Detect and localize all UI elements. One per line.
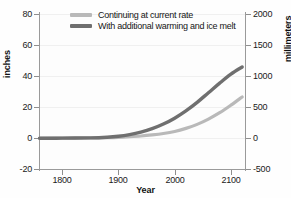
legend-swatch-icon-1 <box>70 24 92 28</box>
y-tick-label-right-0: 0 <box>253 133 258 143</box>
y-tick-label-right-500: 500 <box>253 102 267 112</box>
y-tick-right-500 <box>246 107 251 108</box>
y-tick-label-left-neg20: -20 <box>20 164 32 174</box>
y-tick-right-1000 <box>246 76 251 77</box>
x-tick-label-1800: 1800 <box>52 175 71 185</box>
y-axis-left-title: inches <box>2 50 12 78</box>
y-tick-right-1500 <box>246 45 251 46</box>
legend-item-1: With additional warming and ice melt <box>70 20 236 31</box>
y-tick-label-right-1500: 1500 <box>253 40 272 50</box>
y-tick-label-right-2000: 2000 <box>253 9 272 19</box>
y-axis-right-line <box>245 12 246 171</box>
y-tick-label-left-60: 60 <box>22 40 32 50</box>
legend-item-0: Continuing at current rate <box>70 9 236 20</box>
plot-area <box>39 14 245 169</box>
y-tick-label-left-80: 80 <box>22 9 32 19</box>
y-tick-left-60 <box>34 45 39 46</box>
x-tick-label-2000: 2000 <box>165 175 184 185</box>
gridline-0 <box>40 138 245 139</box>
sea-level-rise-chart: 80 60 40 20 0 -20 2000 1500 1000 500 0 -… <box>0 0 291 198</box>
y-tick-right-neg500 <box>246 169 251 170</box>
y-tick-label-left-20: 20 <box>22 102 32 112</box>
y-tick-left-20 <box>34 107 39 108</box>
legend-label-0: Continuing at current rate <box>98 10 193 20</box>
y-tick-label-left-40: 40 <box>22 71 32 81</box>
legend-swatch-icon-0 <box>70 13 92 17</box>
x-tick-label-2100: 2100 <box>221 175 240 185</box>
y-axis-left-line <box>39 12 40 171</box>
y-tick-label-right-1000: 1000 <box>253 71 272 81</box>
y-tick-left-40 <box>34 76 39 77</box>
y-axis-right-title: millimeters <box>283 16 291 62</box>
y-tick-left-80 <box>34 14 39 15</box>
y-tick-right-0 <box>246 138 251 139</box>
y-tick-right-2000 <box>246 14 251 15</box>
x-axis-line <box>39 169 246 170</box>
y-tick-label-right-neg500: -500 <box>253 164 270 174</box>
y-tick-left-neg20 <box>34 169 39 170</box>
x-tick-label-1900: 1900 <box>108 175 127 185</box>
chart-legend: Continuing at current rate With addition… <box>70 9 236 31</box>
x-axis-title: Year <box>0 185 291 195</box>
gridline-60 <box>40 45 245 46</box>
y-tick-left-0 <box>34 138 39 139</box>
gridline-40 <box>40 76 245 77</box>
gridline-20 <box>40 107 245 108</box>
legend-label-1: With additional warming and ice melt <box>98 21 236 31</box>
y-tick-label-left-0: 0 <box>27 133 32 143</box>
